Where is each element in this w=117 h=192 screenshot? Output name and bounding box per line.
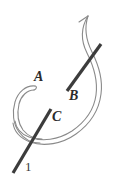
label-a: A (34, 70, 43, 84)
label-figure-number: 1 (25, 160, 32, 173)
hook-tip-path (34, 86, 36, 90)
line-drawing-svg (0, 0, 117, 192)
figure-canvas: A B C 1 (0, 0, 117, 192)
label-b: B (69, 89, 78, 103)
ribbon-outer-edge-path (13, 16, 102, 144)
label-c: C (52, 110, 61, 124)
